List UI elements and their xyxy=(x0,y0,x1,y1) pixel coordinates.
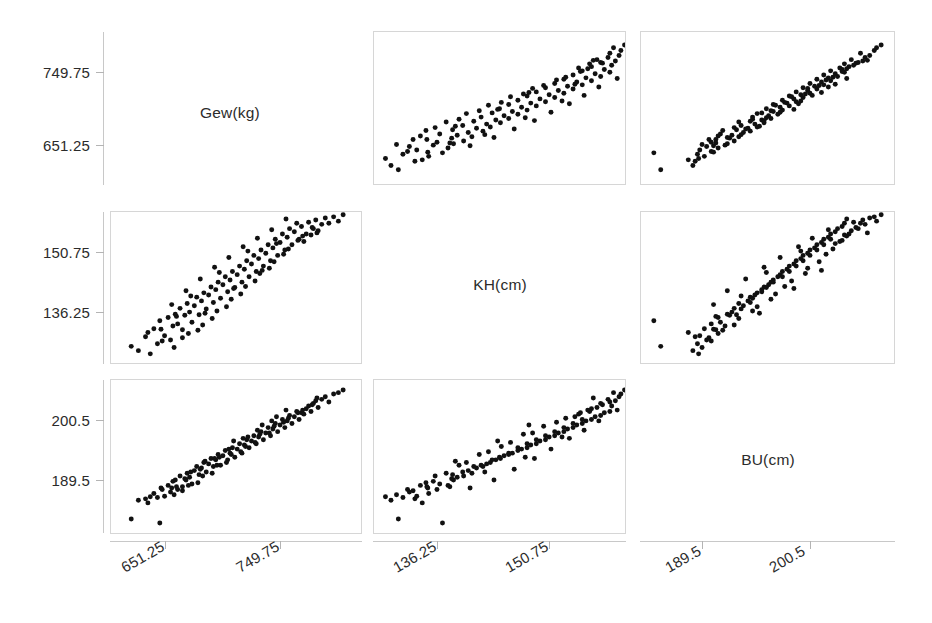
row2-y-tick-upper xyxy=(96,252,104,253)
row3-y-tick-lower xyxy=(96,480,104,481)
row3-y-tick-label-lower: 189.5 xyxy=(51,472,90,489)
scatter-kh-vs-bu xyxy=(641,212,894,363)
row2-y-tick-label-lower: 136.25 xyxy=(43,304,90,321)
row2-y-axis-line xyxy=(103,212,104,364)
diagonal-label-bu: BU(cm) xyxy=(741,451,795,469)
row3-y-tick-label-upper: 200.5 xyxy=(51,412,90,429)
col2-x-tick-label-right: 150.75 xyxy=(502,537,551,575)
col3-x-tick-left xyxy=(702,541,703,549)
panel-gew-vs-bu xyxy=(640,31,895,185)
diagonal-label-gew: Gew(kg) xyxy=(200,104,260,122)
panel-gew-vs-kh xyxy=(373,31,626,185)
col3-x-tick-right xyxy=(810,541,811,549)
row2-y-tick-label-upper: 150.75 xyxy=(43,244,90,261)
col1-x-axis-line xyxy=(110,541,362,542)
col2-x-axis-line xyxy=(373,541,626,542)
row1-y-axis-line xyxy=(103,32,104,185)
panel-kh-vs-bu xyxy=(640,211,895,364)
panel-bu-vs-kh xyxy=(373,379,626,534)
row1-y-tick-label-upper: 749.75 xyxy=(43,64,90,81)
col1-x-tick-label-left: 651.25 xyxy=(118,537,167,575)
diagonal-label-kh: KH(cm) xyxy=(473,276,527,294)
row2-y-tick-lower xyxy=(96,312,104,313)
col3-x-tick-label-left: 189.5 xyxy=(662,542,704,576)
row3-y-axis-line xyxy=(103,380,104,533)
row1-y-tick-upper xyxy=(96,72,104,73)
col3-x-axis-line xyxy=(640,541,895,542)
scatterplot-matrix: 749.75 651.25 Gew(kg) 150.75 136.25 KH(c… xyxy=(0,0,932,623)
col2-x-tick-label-left: 136.25 xyxy=(390,537,439,575)
scatter-gew-vs-kh xyxy=(374,32,625,184)
scatter-gew-vs-bu xyxy=(641,32,894,184)
scatter-bu-vs-gew xyxy=(111,380,361,533)
scatter-bu-vs-kh xyxy=(374,380,625,533)
col1-x-tick-label-right: 749.75 xyxy=(233,537,282,575)
panel-bu-vs-gew xyxy=(110,379,362,534)
panel-kh-vs-gew xyxy=(110,211,362,364)
scatter-kh-vs-gew xyxy=(111,212,361,363)
row3-y-tick-upper xyxy=(96,420,104,421)
row1-y-tick-label-lower: 651.25 xyxy=(43,137,90,154)
col3-x-tick-label-right: 200.5 xyxy=(766,542,808,576)
row1-y-tick-lower xyxy=(96,145,104,146)
